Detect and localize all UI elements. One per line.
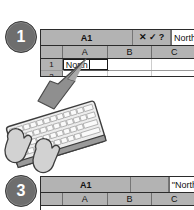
confirm-icon[interactable]: ✓ xyxy=(149,33,157,42)
column-header-b[interactable]: B xyxy=(108,46,153,58)
keyboard-illustration xyxy=(2,93,110,175)
select-all-corner[interactable] xyxy=(41,193,63,205)
formula-bar-step3: A1 "North xyxy=(41,177,194,193)
step-badge-3: 3 xyxy=(5,175,37,207)
formula-input-value: North xyxy=(174,33,194,43)
formula-input[interactable]: "North xyxy=(169,177,194,192)
cell-c2[interactable] xyxy=(152,71,194,77)
column-header-c[interactable]: C xyxy=(152,46,194,58)
column-header-b[interactable]: B xyxy=(108,193,153,205)
name-box[interactable]: A1 xyxy=(41,30,133,45)
figure-canvas: 1 A1 ✕ ✓ ? North A B C 1 North xyxy=(0,0,194,210)
cell-c1[interactable] xyxy=(152,59,194,70)
cell-b2[interactable] xyxy=(108,71,153,77)
formula-bar-icons-area xyxy=(131,177,168,192)
step-number: 1 xyxy=(17,28,26,46)
cancel-icon[interactable]: ✕ xyxy=(139,33,147,42)
column-header-c[interactable]: C xyxy=(152,193,194,205)
column-header-row-step3: A B C xyxy=(41,193,194,206)
formula-bar-step1: A1 ✕ ✓ ? North xyxy=(41,30,194,46)
formula-input-value: "North xyxy=(172,180,194,190)
help-icon[interactable]: ? xyxy=(159,33,165,42)
name-box-value: A1 xyxy=(81,33,93,43)
name-box[interactable]: A1 xyxy=(41,177,131,192)
name-box-value: A1 xyxy=(80,180,92,190)
step-number: 3 xyxy=(17,182,26,200)
step-badge-1: 1 xyxy=(5,21,37,53)
cell-b1[interactable] xyxy=(108,59,153,70)
spreadsheet-step3: A1 "North A B C xyxy=(40,176,194,210)
formula-input[interactable]: North xyxy=(171,30,194,45)
column-header-a[interactable]: A xyxy=(63,193,108,205)
formula-bar-icons: ✕ ✓ ? xyxy=(133,30,171,45)
